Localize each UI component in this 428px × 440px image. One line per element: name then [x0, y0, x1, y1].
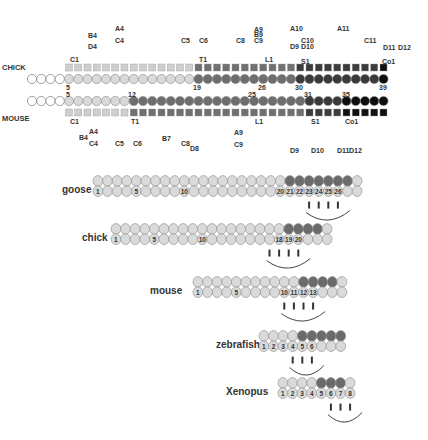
somite [279, 277, 289, 288]
segment-square [223, 109, 230, 116]
somite [289, 277, 299, 288]
hox-label: A4 [89, 128, 98, 135]
hox-label: A9 [234, 129, 243, 136]
vertebra [360, 96, 369, 105]
somite [231, 277, 241, 288]
segment-square [204, 109, 211, 116]
vertebra-number: 25 [325, 188, 333, 195]
vertebra-number: 5 [134, 188, 138, 195]
somite [160, 176, 170, 187]
hox-label: C6 [133, 140, 142, 147]
vertebra [170, 186, 180, 197]
somite [112, 176, 122, 187]
vertebra [277, 74, 286, 83]
somite [188, 224, 198, 235]
somite [247, 176, 257, 187]
somite [208, 176, 218, 187]
vertebra-number: 13 [309, 289, 317, 296]
vertebra-number: 1 [196, 289, 200, 296]
somite [131, 176, 141, 187]
segment-square [362, 64, 369, 71]
tick-mark [269, 250, 271, 257]
segment-square [103, 109, 110, 116]
tick-mark [283, 303, 285, 310]
somite [197, 224, 207, 235]
region-label: Co1 [382, 58, 395, 65]
vertebra [379, 74, 388, 83]
vertebra [189, 186, 199, 197]
vertebra [185, 74, 194, 83]
region-label: S1 [311, 118, 320, 125]
tick-mark [303, 303, 305, 310]
hox-label: C4 [115, 37, 124, 44]
segment-square [288, 64, 295, 71]
somite [303, 224, 313, 235]
somite [316, 378, 326, 389]
species-label-zebrafish: zebrafish [216, 339, 260, 350]
tick-mark [349, 404, 351, 411]
vertebra-number: 5 [319, 390, 323, 397]
somite [307, 331, 317, 342]
top-panel: CHICK MOUSE B4 D4 A4 C4 C5 C6 C8 A9 B9 C… [2, 25, 411, 154]
vertebra [222, 74, 231, 83]
chick-number: 19 [193, 84, 201, 91]
vertebra [130, 234, 140, 245]
mouse-number: 25 [248, 91, 256, 98]
vertebra-number: 5 [234, 289, 238, 296]
vertebra-number: 2 [272, 343, 276, 350]
vertebra [141, 186, 151, 197]
somite [295, 176, 305, 187]
vertebra [138, 96, 147, 105]
vertebra-number: 6 [329, 390, 333, 397]
mouse-vertebrae [27, 96, 388, 105]
hox-label: B7 [162, 135, 171, 142]
somite [237, 176, 247, 187]
segment-square [121, 109, 128, 116]
segment-square [140, 64, 147, 71]
species-row-mouse: 1510111213 [193, 277, 347, 321]
segment-square [288, 109, 295, 116]
vertebra-number: 24 [315, 188, 323, 195]
somite [179, 176, 189, 187]
vertebra [208, 186, 218, 197]
hox-label: D12 [349, 147, 362, 154]
hox-label: D9 [290, 147, 299, 154]
vertebra [333, 96, 342, 105]
vertebra [241, 287, 251, 298]
somite [304, 176, 314, 187]
region-label: Co1 [345, 118, 358, 125]
vertebra [111, 96, 120, 105]
vertebra [227, 186, 237, 197]
vertebra [218, 186, 228, 197]
vertebra [360, 74, 369, 83]
region-label: C1 [70, 118, 79, 125]
segment-square [269, 64, 276, 71]
somite [284, 224, 294, 235]
somite [322, 224, 332, 235]
vertebra [212, 96, 221, 105]
segment-square [334, 64, 341, 71]
hox-label: D8 [190, 145, 199, 152]
hox-label: D4 [88, 43, 97, 50]
vertebra [148, 74, 157, 83]
somite [178, 224, 188, 235]
vertebra [268, 74, 277, 83]
vertebra [249, 74, 258, 83]
vertebra [370, 96, 379, 105]
vertebra [370, 74, 379, 83]
vertebra [157, 74, 166, 83]
somite [226, 224, 236, 235]
vertebra-number: 1 [281, 390, 285, 397]
somite [274, 224, 284, 235]
vertebra [352, 186, 362, 197]
segment-square [306, 109, 313, 116]
vertebral-column-diagram: CHICK MOUSE B4 D4 A4 C4 C5 C6 C8 A9 B9 C… [0, 0, 428, 440]
vertebra-number: 4 [310, 390, 314, 397]
vertebra-number: 22 [296, 188, 304, 195]
somite [308, 277, 318, 288]
tick-mark [330, 404, 332, 411]
vertebra [260, 287, 270, 298]
hox-label: B4 [79, 134, 88, 141]
tick-mark [327, 202, 329, 209]
segment-square [380, 64, 387, 71]
